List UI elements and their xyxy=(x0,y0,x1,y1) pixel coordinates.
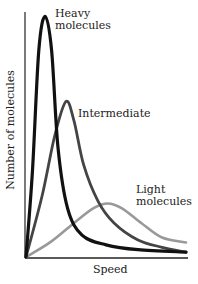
chart-canvas xyxy=(0,0,198,284)
label-heavy-line2: molecules xyxy=(55,20,111,32)
series-line-heavy-molecules xyxy=(26,16,186,257)
x-axis-label: Speed xyxy=(93,264,128,276)
y-axis-label: Number of molecules xyxy=(4,70,17,190)
label-intermediate: Intermediate xyxy=(78,108,151,120)
series-layer xyxy=(26,16,186,257)
series-line-intermediate xyxy=(26,101,186,257)
label-light-line2: molecules xyxy=(136,196,192,208)
label-heavy: Heavy molecules xyxy=(55,8,111,32)
label-light: Light molecules xyxy=(136,184,192,208)
